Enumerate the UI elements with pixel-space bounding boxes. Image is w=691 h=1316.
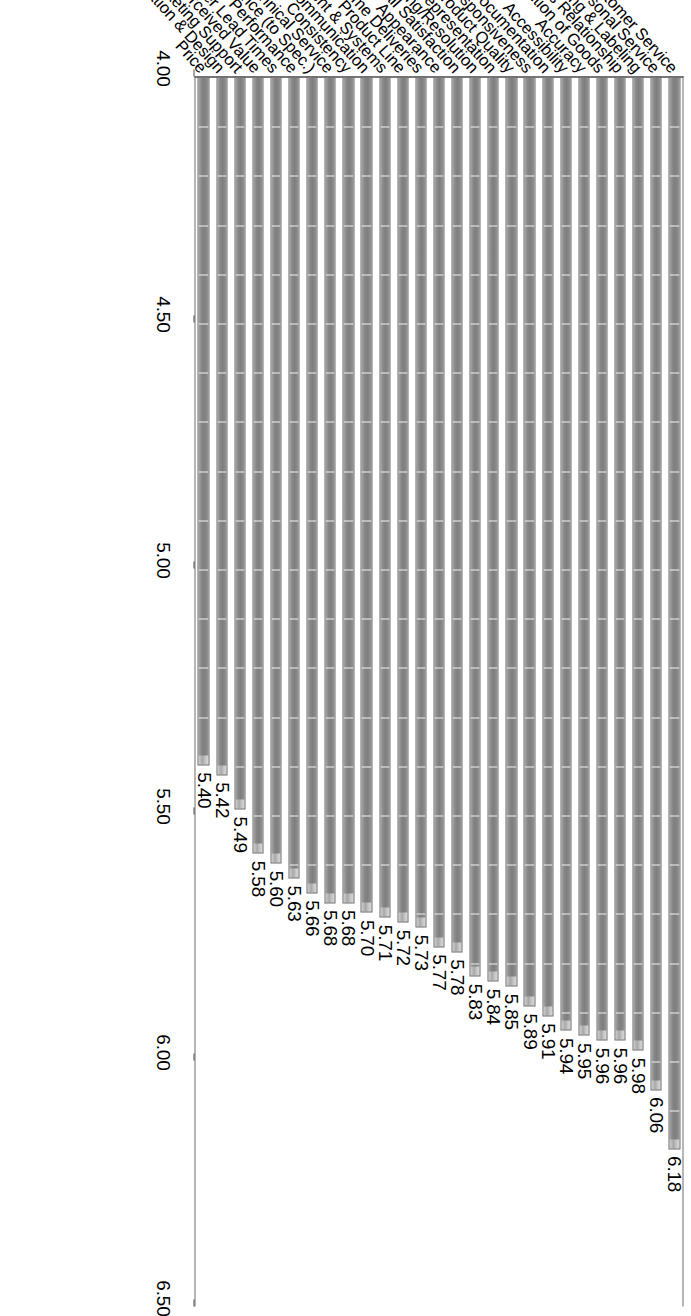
- bar-value-label: 5.83: [465, 983, 484, 1019]
- bar-gridline: [416, 225, 425, 226]
- bar-gridline: [343, 225, 352, 226]
- bar-gridline: [579, 864, 588, 865]
- bar-row: 5.83: [469, 76, 480, 1306]
- bar-gridline: [398, 667, 407, 668]
- bar-gridline: [470, 766, 479, 767]
- bar-gridline: [380, 372, 389, 373]
- bar-gridline: [651, 1061, 660, 1062]
- bar-gridline: [506, 618, 515, 619]
- bar-gridline: [398, 766, 407, 767]
- bar-value-label: 5.68: [320, 910, 339, 946]
- bar: [288, 76, 299, 878]
- bar-gridline: [271, 766, 280, 767]
- bar-gridline: [271, 717, 280, 718]
- bar-gridline: [253, 274, 262, 275]
- bar-value-label: 5.73: [411, 934, 430, 970]
- bar-gridline: [543, 372, 552, 373]
- bar-gridline: [325, 126, 334, 127]
- bar: [306, 76, 317, 893]
- bar-gridline: [307, 421, 316, 422]
- bar-gridline: [217, 618, 226, 619]
- bar: [397, 76, 408, 922]
- bar-gridline: [289, 421, 298, 422]
- bar-value-label: 5.58: [248, 860, 267, 896]
- bar-gridline: [543, 175, 552, 176]
- bar-gridline: [416, 569, 425, 570]
- bar-gridline: [524, 175, 533, 176]
- bar-gridline: [669, 323, 678, 324]
- bar-gridline: [543, 766, 552, 767]
- bar-gridline: [543, 520, 552, 521]
- bar-gridline: [253, 372, 262, 373]
- bar-gridline: [470, 864, 479, 865]
- bar-gridline: [416, 274, 425, 275]
- bar-gridline: [579, 618, 588, 619]
- bar-value-label: 6.18: [664, 1156, 683, 1192]
- bar-gridline: [307, 372, 316, 373]
- bar-gridline: [361, 569, 370, 570]
- bar-gridline: [651, 323, 660, 324]
- bar: [560, 76, 571, 1030]
- bar-cap: [633, 1040, 642, 1049]
- bar-cap: [253, 843, 262, 852]
- bar-gridline: [217, 421, 226, 422]
- bar-gridline: [579, 963, 588, 964]
- bar: [360, 76, 371, 912]
- bar-gridline: [561, 421, 570, 422]
- bar-gridline: [452, 323, 461, 324]
- bar-series: 6.186.065.985.965.965.955.945.915.895.85…: [194, 76, 683, 1306]
- bar: [379, 76, 390, 917]
- bar-gridline: [597, 372, 606, 373]
- bar-gridline: [434, 717, 443, 718]
- bar-gridline: [398, 717, 407, 718]
- bar-gridline: [579, 520, 588, 521]
- bar-gridline: [543, 225, 552, 226]
- bar-gridline: [198, 323, 207, 324]
- bar-gridline: [271, 225, 280, 226]
- bar-gridline: [434, 126, 443, 127]
- bar-gridline: [561, 175, 570, 176]
- bar-gridline: [669, 175, 678, 176]
- bar-gridline: [543, 569, 552, 570]
- bar-gridline: [524, 864, 533, 865]
- bar-gridline: [543, 323, 552, 324]
- bar-gridline: [470, 225, 479, 226]
- bar-row: 5.60: [270, 76, 281, 1306]
- bar-gridline: [561, 766, 570, 767]
- bar-gridline: [325, 274, 334, 275]
- bar-gridline: [416, 766, 425, 767]
- bar-gridline: [434, 815, 443, 816]
- bar-gridline: [579, 126, 588, 127]
- bar-gridline: [543, 667, 552, 668]
- bar-gridline: [271, 175, 280, 176]
- bar-gridline: [253, 323, 262, 324]
- bar-cap: [325, 893, 334, 902]
- bar-gridline: [398, 372, 407, 373]
- bar-gridline: [579, 717, 588, 718]
- bar-row: 5.49: [234, 76, 245, 1306]
- bar-gridline: [271, 815, 280, 816]
- bar: [668, 76, 679, 1149]
- bar-gridline: [416, 175, 425, 176]
- bar-gridline: [253, 815, 262, 816]
- bar-gridline: [633, 815, 642, 816]
- bar-gridline: [633, 717, 642, 718]
- bar-gridline: [597, 175, 606, 176]
- bar-value-label: 5.96: [592, 1047, 611, 1083]
- bar-gridline: [434, 175, 443, 176]
- bar-gridline: [361, 274, 370, 275]
- bar-gridline: [579, 372, 588, 373]
- bar-gridline: [597, 667, 606, 668]
- bar: [415, 76, 426, 927]
- bar-gridline: [289, 717, 298, 718]
- bar-gridline: [198, 372, 207, 373]
- bar-gridline: [361, 618, 370, 619]
- bar-gridline: [651, 717, 660, 718]
- bar-gridline: [198, 520, 207, 521]
- bar-gridline: [380, 864, 389, 865]
- bar-gridline: [651, 421, 660, 422]
- bar-gridline: [325, 815, 334, 816]
- bar-gridline: [416, 913, 425, 914]
- bar-gridline: [669, 126, 678, 127]
